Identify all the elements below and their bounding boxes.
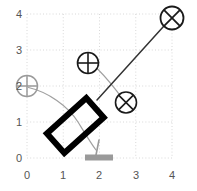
straight-link-line	[97, 22, 168, 101]
x-marker-top-right[interactable]	[161, 7, 184, 30]
y-tick-label-4: 4	[4, 9, 22, 20]
x-tick-label-2: 2	[89, 170, 109, 181]
plot-canvas	[0, 0, 197, 191]
ground-stem-line	[96, 140, 99, 155]
ground-support-bar	[85, 155, 113, 161]
x-marker-lower-right[interactable]	[116, 92, 137, 113]
x-tick-label-4: 4	[162, 170, 182, 181]
x-tick-label-0: 0	[17, 170, 37, 181]
y-tick-label-0: 0	[4, 153, 22, 164]
rotated-rectangle-body	[47, 98, 104, 153]
x-tick-label-1: 1	[53, 170, 73, 181]
ground-support	[85, 140, 113, 161]
y-tick-label-2: 2	[4, 81, 22, 92]
y-tick-label-1: 1	[4, 117, 22, 128]
mechanism-figure: 4 3 2 1 0 0 1 2 3 4	[0, 0, 197, 191]
plus-marker-upper[interactable]	[78, 53, 99, 74]
x-tick-label-3: 3	[126, 170, 146, 181]
y-tick-label-3: 3	[4, 45, 22, 56]
